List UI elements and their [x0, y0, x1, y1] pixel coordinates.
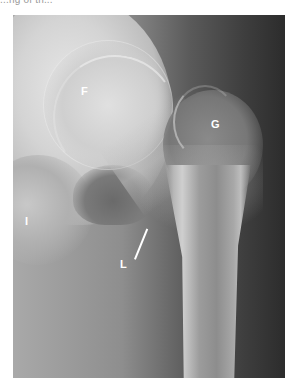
- label-l: L: [120, 259, 127, 270]
- caption-fragment: ...ng of th...: [0, 0, 53, 5]
- label-g: G: [211, 119, 220, 130]
- hip-radiograph: [13, 15, 285, 378]
- label-f: F: [81, 86, 88, 97]
- label-i: I: [25, 216, 28, 227]
- femoral-shaft: [165, 165, 251, 378]
